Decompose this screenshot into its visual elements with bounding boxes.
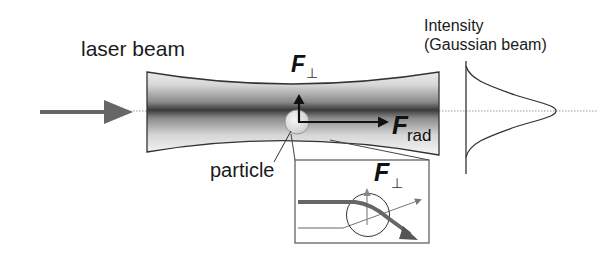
f-rad-label: Frad — [392, 112, 432, 138]
intensity-label: Intensity (Gaussian beam) — [424, 16, 547, 54]
f-perp-label: F⊥ — [291, 53, 317, 76]
incident-arrow-icon — [40, 100, 133, 124]
inset-f-perp-subscript: ⊥ — [391, 175, 403, 191]
laser-beam-label: laser beam — [81, 38, 185, 59]
gaussian-intensity-curve — [466, 61, 556, 174]
intensity-label-line1: Intensity — [424, 16, 547, 35]
inset-f-perp-label: F⊥ — [374, 160, 401, 185]
inset-f-perp-symbol: F — [374, 158, 389, 186]
particle-label: particle — [210, 160, 274, 180]
f-perp-symbol: F — [291, 51, 305, 77]
intensity-label-line2: (Gaussian beam) — [424, 35, 547, 54]
f-perp-subscript: ⊥ — [306, 65, 318, 81]
ray-refraction-inset — [295, 160, 429, 243]
f-rad-symbol: F — [392, 110, 408, 140]
optical-trap-diagram: laser beam Intensity (Gaussian beam) par… — [0, 0, 609, 253]
f-rad-subscript: rad — [407, 126, 432, 145]
